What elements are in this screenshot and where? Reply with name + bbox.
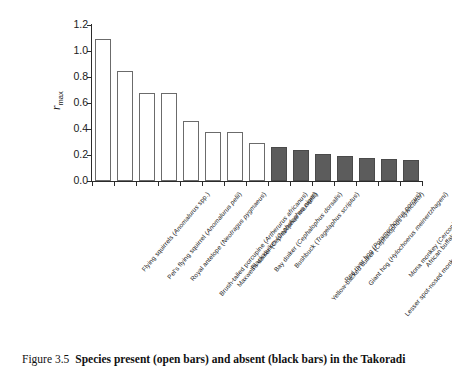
y-axis-tick-label: 0.4 bbox=[73, 122, 88, 135]
bar bbox=[117, 71, 133, 182]
y-axis-tick-label: 0.8 bbox=[73, 70, 88, 83]
bar bbox=[271, 147, 287, 181]
x-axis-tick-mark bbox=[246, 181, 247, 186]
bar bbox=[381, 159, 397, 181]
x-axis-category-label: Maxwell's duiker (Cephalophus maxwelli) bbox=[235, 190, 319, 288]
bar bbox=[293, 150, 309, 181]
y-axis-tick-label: 0.2 bbox=[73, 148, 88, 161]
figure-container: rmax 0.00.20.40.60.81.01.2 Flying squirr… bbox=[0, 0, 452, 376]
y-axis-subscript: max bbox=[56, 91, 65, 105]
x-axis-tick-mark bbox=[180, 181, 181, 186]
figure-number: Figure 3.5 bbox=[22, 353, 69, 365]
x-axis-category-label: Pel's flying squirrel (Anomalurus pelii) bbox=[166, 190, 244, 281]
bar bbox=[139, 93, 155, 181]
x-axis-category-label: Red river hog (Potamochoerus porcus) bbox=[343, 190, 423, 283]
x-axis-tick-mark bbox=[378, 181, 379, 186]
bar bbox=[337, 156, 353, 181]
bar bbox=[183, 121, 199, 181]
x-axis-tick-mark bbox=[224, 181, 225, 186]
bar bbox=[95, 39, 111, 181]
y-axis-tick-label: 1.2 bbox=[73, 18, 88, 31]
x-axis-category-label: Mona monkey (Cercopithecus mona) bbox=[407, 190, 452, 279]
bar bbox=[403, 160, 419, 181]
x-axis-category-label: Lesser spot-nosed monkey (Cercopithecus … bbox=[403, 190, 452, 318]
bar bbox=[205, 132, 221, 181]
bar bbox=[227, 132, 243, 181]
caption-text: Species present (open bars) and absent (… bbox=[75, 353, 405, 365]
x-axis-category-label: Giant hog (Hylochoerus meinertzhageni) bbox=[367, 190, 450, 287]
y-axis-symbol: r bbox=[50, 106, 62, 110]
x-axis-tick-mark bbox=[136, 181, 137, 186]
bar bbox=[359, 158, 375, 181]
x-axis-category-label: Bushbuck (Tragelaphus scriptus) bbox=[293, 190, 361, 269]
y-axis-tick-label: 1.0 bbox=[73, 44, 88, 57]
x-axis-tick-mark bbox=[334, 181, 335, 186]
x-axis-category-label: Bay duiker (Cephalophus dorsalis) bbox=[272, 190, 344, 273]
y-axis-tick-label: 0.0 bbox=[73, 174, 88, 187]
bar bbox=[161, 93, 177, 181]
bar bbox=[315, 154, 331, 181]
x-axis-category-label: Brush-tailed porcupine (Artherurus afric… bbox=[218, 190, 310, 297]
figure-caption: Figure 3.5Species present (open bars) an… bbox=[22, 352, 434, 366]
plot-area: 0.00.20.40.60.81.01.2 bbox=[92, 25, 422, 181]
x-axis-tick-mark bbox=[290, 181, 291, 186]
x-axis-category-label: African buffalo (Syncerus caffer) bbox=[424, 190, 452, 268]
x-axis-line bbox=[91, 181, 423, 182]
x-axis-tick-mark bbox=[422, 181, 423, 186]
x-axis-category-label: Flying squirrels (Anomalurus spp.) bbox=[140, 190, 211, 273]
bar bbox=[249, 143, 265, 181]
x-axis-tick-mark bbox=[92, 181, 93, 186]
x-axis-tick-mark bbox=[400, 181, 401, 186]
x-axis-tick-mark bbox=[114, 181, 115, 186]
x-axis-tick-mark bbox=[356, 181, 357, 186]
x-axis-tick-mark bbox=[158, 181, 159, 186]
y-axis-tick-label: 0.6 bbox=[73, 96, 88, 109]
x-axis-tick-mark bbox=[202, 181, 203, 186]
x-axis-category-label: Royal antelope (Neotragus pygmaeus) bbox=[189, 190, 268, 282]
x-axis-category-label: Black duiker (Cephalophus niger) bbox=[249, 190, 319, 271]
x-axis-tick-mark bbox=[268, 181, 269, 186]
x-axis-category-label: Yellow-backed duiker (Cephalophus sylvic… bbox=[330, 190, 426, 302]
x-axis-tick-mark bbox=[312, 181, 313, 186]
